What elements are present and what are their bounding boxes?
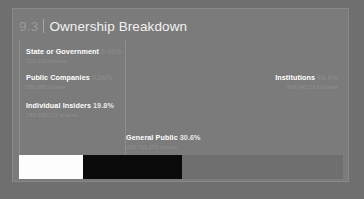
header-divider (43, 19, 44, 33)
callout-state-shares: 310,500 shares (26, 57, 122, 65)
page-title: Ownership Breakdown (49, 19, 187, 34)
callout-institutions-label: Institutions (275, 73, 315, 82)
callout-general-public[interactable]: General Public30.6% 289,706,279 shares (126, 133, 201, 151)
callout-public-companies[interactable]: Public Companies0.06% 586,080 shares (26, 73, 113, 91)
section-number: 9.3 (19, 19, 38, 34)
callout-individual-insiders[interactable]: Individual Insiders19.8% 188,055,272 sha… (26, 101, 114, 119)
callout-individual-insiders-title-row: Individual Insiders19.8% (26, 101, 114, 110)
callout-individual-insiders-label: Individual Insiders (26, 101, 91, 110)
screenshot-root: 9.3 Ownership Breakdown State or Governm… (0, 0, 364, 199)
ownership-breakdown-panel: 9.3 Ownership Breakdown State or Governm… (12, 8, 349, 182)
callout-individual-insiders-percent: 19.8% (93, 101, 114, 110)
callout-public-companies-shares: 586,080 shares (26, 83, 113, 91)
callout-institutions-percent: 49.6% (317, 73, 338, 82)
callout-state-percent: 0.03% (101, 47, 122, 56)
panel-header: 9.3 Ownership Breakdown (19, 15, 187, 37)
callout-general-public-label: General Public (126, 133, 178, 142)
callout-institutions-title-row: Institutions49.6% (206, 73, 338, 82)
callout-state-or-government[interactable]: State or Government0.03% 310,500 shares (26, 47, 122, 65)
callout-state-title-row: State or Government0.03% (26, 47, 122, 56)
ownership-stacked-bar (19, 155, 343, 179)
bar-segment-general-public[interactable] (83, 155, 182, 179)
callout-individual-insiders-shares: 188,055,272 shares (26, 111, 114, 119)
callout-institutions[interactable]: Institutions49.6% 469,242,563 shares (206, 73, 338, 91)
callout-public-companies-title-row: Public Companies0.06% (26, 73, 113, 82)
callout-public-companies-label: Public Companies (26, 73, 90, 82)
callout-state-label: State or Government (26, 47, 99, 56)
callout-public-companies-percent: 0.06% (92, 73, 113, 82)
callout-general-public-percent: 30.6% (180, 133, 201, 142)
bar-segment-individual-insiders[interactable] (19, 155, 83, 179)
callout-general-public-shares: 289,706,279 shares (126, 143, 201, 151)
callout-institutions-shares: 469,242,563 shares (206, 83, 338, 91)
bar-segment-institutions[interactable] (182, 155, 343, 179)
callout-general-public-title-row: General Public30.6% (126, 133, 201, 142)
